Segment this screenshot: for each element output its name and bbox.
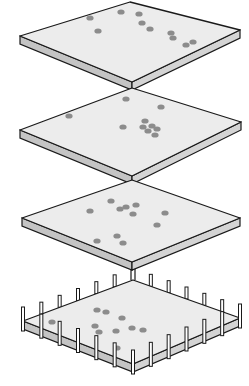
data-point-dot xyxy=(113,233,120,238)
data-point-dot xyxy=(93,238,100,243)
fence-post xyxy=(167,281,170,293)
data-point-dot xyxy=(119,240,126,245)
data-point-dot xyxy=(151,132,158,137)
data-point-dot xyxy=(118,315,125,320)
data-point-dot xyxy=(132,202,139,207)
data-point-dot xyxy=(144,128,151,133)
data-point-dot xyxy=(189,39,196,44)
data-point-dot xyxy=(117,9,124,14)
data-point-dot xyxy=(182,42,189,47)
data-point-dot xyxy=(48,319,55,324)
fence-post xyxy=(58,295,61,307)
fence-post xyxy=(149,342,152,366)
fence-post xyxy=(221,312,224,336)
data-point-dot xyxy=(119,124,126,129)
data-point-dot xyxy=(141,118,148,123)
data-point-dot xyxy=(153,222,160,227)
diagram-canvas xyxy=(0,0,249,386)
data-point-dot xyxy=(128,325,135,330)
stacked-layers-diagram xyxy=(0,0,249,386)
data-point-dot xyxy=(146,26,153,31)
fence-post xyxy=(22,307,25,331)
data-point-dot xyxy=(122,204,129,209)
fence-post xyxy=(185,287,188,299)
data-point-dot xyxy=(93,307,100,312)
fence-post xyxy=(203,293,206,305)
fence-post xyxy=(77,329,80,353)
fence-post xyxy=(95,282,98,294)
data-point-dot xyxy=(107,198,114,203)
fence-post xyxy=(113,343,116,367)
data-point-dot xyxy=(86,208,93,213)
data-point-dot xyxy=(153,126,160,131)
data-point-dot xyxy=(94,28,101,33)
fence-post xyxy=(58,321,61,345)
fence-post xyxy=(167,335,170,359)
data-point-dot xyxy=(169,35,176,40)
layer-3-top-face xyxy=(22,180,240,262)
fence-post xyxy=(185,327,188,351)
data-point-dot xyxy=(161,210,168,215)
fence-post xyxy=(77,289,80,301)
data-point-dot xyxy=(138,20,145,25)
fence-post xyxy=(132,350,135,374)
data-point-dot xyxy=(139,124,146,129)
data-point-dot xyxy=(91,323,98,328)
data-point-dot xyxy=(86,15,93,20)
fence-post xyxy=(149,274,152,286)
fence-post xyxy=(221,300,224,312)
data-point-dot xyxy=(102,309,109,314)
fence-post xyxy=(40,302,43,314)
data-point-dot xyxy=(139,327,146,332)
fence-post xyxy=(40,314,43,338)
data-point-dot xyxy=(95,329,102,334)
fence-post xyxy=(113,275,116,287)
layer-1-top-face xyxy=(20,2,240,82)
layer-2-top-face xyxy=(20,88,241,176)
data-point-dot xyxy=(157,104,164,109)
data-point-dot xyxy=(167,30,174,35)
data-point-dot xyxy=(122,96,129,101)
fence-post xyxy=(95,336,98,360)
data-point-dot xyxy=(112,328,119,333)
data-point-dot xyxy=(129,211,136,216)
data-point-dot xyxy=(65,113,72,118)
fence-post xyxy=(203,319,206,343)
data-point-dot xyxy=(135,11,142,16)
fence-post xyxy=(239,304,242,328)
